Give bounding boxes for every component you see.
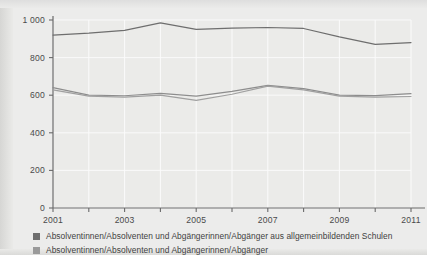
legend-item-label: Absolventinnen/Absolventen und Abgängeri… [46, 245, 268, 255]
y-tick-label: 400 [30, 128, 45, 138]
chart-figure: 02004006008001 0002001200320052007200920… [0, 0, 427, 255]
x-tick-label: 2007 [258, 215, 278, 225]
x-tick-label: 2003 [115, 215, 135, 225]
legend-item: Absolventinnen/Absolventen und Abgängeri… [33, 245, 425, 255]
chart-legend: Absolventinnen/Absolventen und Abgängeri… [33, 231, 425, 255]
y-tick-label: 800 [30, 53, 45, 63]
legend-swatch-icon [33, 233, 40, 240]
plot-area: 02004006008001 0002001200320052007200920… [0, 0, 427, 228]
x-tick-label: 2001 [43, 215, 63, 225]
y-tick-label: 200 [30, 165, 45, 175]
x-tick-label: 2009 [329, 215, 349, 225]
x-tick-label: 2011 [401, 215, 420, 225]
y-tick-label: 0 [40, 203, 45, 213]
y-tick-label: 600 [30, 90, 45, 100]
line-chart-svg: 02004006008001 0002001200320052007200920… [0, 0, 427, 228]
y-tick-label: 1 000 [22, 15, 45, 25]
legend-swatch-icon [33, 247, 40, 254]
legend-item: Absolventinnen/Absolventen und Abgängeri… [33, 231, 425, 243]
x-tick-label: 2005 [186, 215, 206, 225]
legend-item-label: Absolventinnen/Absolventen und Abgängeri… [46, 231, 392, 241]
